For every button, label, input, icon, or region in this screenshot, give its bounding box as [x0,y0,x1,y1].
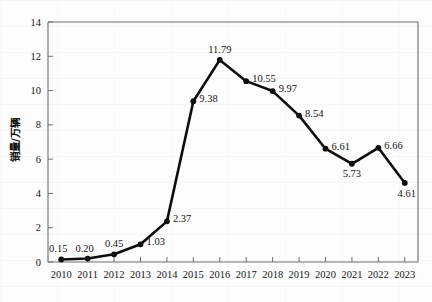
data-value-label: 6.66 [384,140,402,151]
data-value-label: 11.79 [208,44,231,55]
data-point-marker [375,145,381,151]
y-tick-label: 0 [36,257,41,268]
data-value-label: 0.15 [49,243,67,254]
y-tick-label: 6 [36,154,41,165]
x-tick-label: 2016 [209,269,230,280]
data-point-marker [58,257,64,263]
data-point-marker [270,88,276,94]
data-point-marker [111,251,117,257]
x-tick-label: 2021 [341,269,362,280]
data-series-sales [61,60,405,260]
x-tick-label: 2019 [289,269,310,280]
x-tick-label: 2010 [51,269,72,280]
data-point-marker [138,241,144,247]
y-tick-label: 2 [36,222,41,233]
data-point-marker [323,146,329,152]
data-value-label: 1.03 [147,236,165,247]
line-chart-canvas: 02468101214 2010201120122013201420152016… [0,0,432,302]
data-point-marker [402,180,408,186]
x-tick-label: 2013 [130,269,151,280]
data-point-marker [85,256,91,262]
chart-figure: 02468101214 2010201120122013201420152016… [0,0,432,302]
y-tick-label: 4 [36,188,42,199]
data-value-label: 5.73 [343,168,361,179]
y-tick-label: 10 [31,85,42,96]
x-tick-label: 2020 [315,269,336,280]
y-axis-tick-labels: 02468101214 [31,17,42,268]
data-point-marker [190,98,196,104]
y-tick-label: 8 [36,119,41,130]
y-tick-label: 14 [31,17,42,28]
y-tick-label: 12 [31,51,42,62]
data-point-marker [296,113,302,119]
x-tick-label: 2022 [368,269,389,280]
data-value-label: 9.38 [199,93,217,104]
plot-frame [48,22,418,262]
data-point-marker [243,78,249,84]
x-axis-ticks [61,257,405,262]
x-axis-tick-labels: 2010201120122013201420152016201720182019… [51,269,416,280]
data-value-label: 9.97 [279,83,297,94]
data-point-marker [217,57,223,63]
data-value-label: 6.61 [332,141,350,152]
data-point-marker [349,161,355,167]
data-point-marker [164,218,170,224]
data-value-label: 2.37 [173,213,191,224]
data-value-label: 8.54 [305,108,324,119]
y-axis-title: 销量/万辆 [9,117,21,162]
x-tick-label: 2017 [236,269,257,280]
x-tick-label: 2023 [394,269,415,280]
x-tick-label: 2018 [262,269,283,280]
x-tick-label: 2012 [104,269,125,280]
data-value-label: 10.55 [252,73,276,84]
data-value-label: 4.61 [398,188,416,199]
x-tick-label: 2011 [77,269,98,280]
data-value-label: 0.45 [105,238,123,249]
data-value-labels: 0.150.200.451.032.379.3811.7910.559.978.… [49,44,416,255]
x-tick-label: 2014 [156,269,178,280]
series-line [61,60,405,260]
data-value-label: 0.20 [75,243,93,254]
y-axis-ticks [48,22,53,262]
x-tick-label: 2015 [183,269,204,280]
data-point-markers [58,57,407,262]
